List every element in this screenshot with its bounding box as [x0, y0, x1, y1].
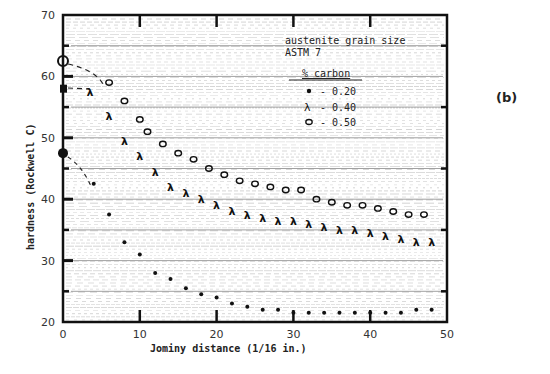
svg-text:λ: λ — [290, 215, 297, 228]
legend-label-020: - 0.20 — [320, 86, 356, 97]
svg-text:λ: λ — [367, 227, 374, 240]
x-tick-label: 0 — [60, 328, 67, 341]
grid-lines — [66, 19, 444, 320]
y-tick-label: 30 — [41, 255, 55, 268]
x-tick-label: 50 — [440, 328, 454, 341]
x-tick-label: 10 — [133, 328, 147, 341]
svg-text:λ: λ — [351, 224, 358, 237]
y-tick-label: 70 — [41, 9, 55, 22]
svg-text:λ: λ — [244, 209, 251, 222]
x-tick-label: 40 — [363, 328, 377, 341]
svg-text:λ: λ — [413, 236, 420, 249]
series-020-carbon — [58, 148, 434, 315]
svg-text:λ: λ — [259, 212, 266, 225]
y-tick-label: 50 — [41, 132, 55, 145]
svg-text:λ: λ — [213, 199, 220, 212]
svg-text:λ: λ — [106, 110, 113, 123]
jominy-hardness-chart: 203040506070 01020304050 Jominy distance… — [0, 0, 550, 374]
svg-text:λ: λ — [136, 150, 143, 163]
svg-text:λ: λ — [321, 221, 328, 234]
legend-label-040: - 0.40 — [320, 102, 356, 113]
y-axis-label: hardness (Rockwell C) — [25, 124, 36, 250]
svg-text:λ: λ — [167, 181, 174, 194]
svg-text:λ: λ — [121, 135, 128, 148]
svg-text:λ: λ — [336, 224, 343, 237]
y-tick-label: 60 — [41, 70, 55, 83]
y-tick-labels: 203040506070 — [41, 9, 55, 329]
legend-x-icon: λ — [304, 101, 311, 114]
svg-text:λ: λ — [275, 215, 282, 228]
x-tick-label: 20 — [210, 328, 224, 341]
legend-annotation-line1: austenite grain size — [285, 35, 405, 46]
extrapolation-dashes — [68, 64, 103, 188]
legend-label-050: - 0.50 — [320, 117, 356, 128]
x-tick-label: 30 — [286, 328, 300, 341]
svg-text:λ: λ — [228, 205, 235, 218]
svg-text:λ: λ — [382, 230, 389, 243]
legend-annotation-line2: ASTM 7 — [285, 47, 321, 58]
svg-text:λ: λ — [198, 193, 205, 206]
legend-title: % carbon — [302, 68, 350, 79]
svg-text:λ: λ — [86, 86, 93, 99]
svg-text:λ: λ — [182, 187, 189, 200]
panel-label: (b) — [496, 90, 517, 105]
data-points: λλλλλλλλλλλλλλλλλλλλλλλ — [58, 56, 435, 315]
svg-text:λ: λ — [397, 233, 404, 246]
y-tick-label: 20 — [41, 316, 55, 329]
svg-text:λ: λ — [305, 218, 312, 231]
x-axis-label: Jominy distance (1/16 in.) — [150, 343, 307, 354]
svg-text:λ: λ — [428, 236, 435, 249]
x-tick-labels: 01020304050 — [60, 328, 455, 341]
y-tick-label: 40 — [41, 193, 55, 206]
legend-circle-icon — [306, 120, 312, 125]
legend-dot-icon — [307, 89, 311, 93]
svg-text:λ: λ — [152, 166, 159, 179]
